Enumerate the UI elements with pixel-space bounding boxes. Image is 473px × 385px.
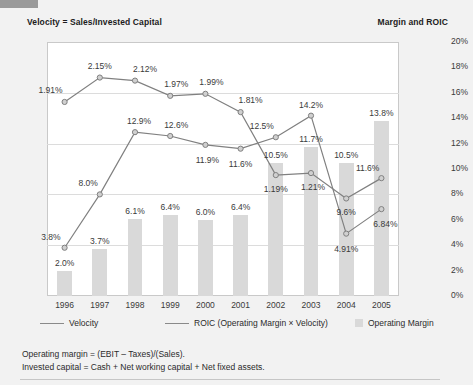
bar-value-label: 6.4% <box>231 202 250 212</box>
roic-marker <box>238 146 243 151</box>
bottom-divider <box>20 379 440 380</box>
velocity-value-label: 9.6% <box>337 207 356 217</box>
chart-legend: VelocityROIC (Operating Margin × Velocit… <box>40 318 440 332</box>
right-axis-title: Margin and ROIC <box>378 17 448 27</box>
bar-value-label: 13.8% <box>369 108 393 118</box>
right-axis-tick-label: 16% <box>451 87 473 97</box>
roic-value-label: 3.8% <box>41 232 60 242</box>
roic-marker <box>273 135 278 140</box>
roic-marker <box>97 192 102 197</box>
velocity-marker <box>97 75 102 80</box>
roic-marker <box>308 113 313 118</box>
x-axis-tick-label: 2003 <box>293 300 328 310</box>
bar-value-label: 6.0% <box>196 207 215 217</box>
velocity-marker <box>238 110 243 115</box>
roic-value-label: 11.6% <box>229 159 252 169</box>
right-axis-tick-label: 10% <box>451 163 473 173</box>
velocity-marker <box>344 196 349 201</box>
velocity-value-label: 1.91% <box>38 85 62 95</box>
velocity-marker <box>273 172 278 177</box>
roic-marker <box>203 142 208 147</box>
velocity-value-label: 1.81% <box>239 95 263 105</box>
chart-plot-area: 0.00.51.01.52.02.5 0%2%4%6%8%10%12%14%16… <box>47 42 399 296</box>
velocity-value-label: 1.99% <box>199 77 223 87</box>
legend-line-marker <box>40 323 64 324</box>
x-axis-tick-label: 2004 <box>329 300 364 310</box>
roic-value-label: 12.6% <box>164 120 188 130</box>
legend-item-operating: Operating Margin <box>355 318 434 328</box>
legend-item-velocity: Velocity <box>40 318 98 328</box>
bar-value-label: 6.1% <box>125 206 144 216</box>
x-axis-tick-label: 1997 <box>82 300 117 310</box>
velocity-marker <box>62 99 67 104</box>
roic-value-label: 12.9% <box>127 116 151 126</box>
right-axis-tick-label: 12% <box>451 138 473 148</box>
footnote-2: Invested capital = Cash + Net working ca… <box>22 361 265 374</box>
velocity-marker <box>132 78 137 83</box>
velocity-marker <box>203 91 208 96</box>
roic-marker <box>168 133 173 138</box>
chart-footnotes: Operating margin = (EBIT – Taxes)/(Sales… <box>22 348 265 374</box>
velocity-value-label: 1.19% <box>264 184 288 194</box>
right-axis-tick-label: 14% <box>451 112 473 122</box>
legend-label: ROIC (Operating Margin × Velocity) <box>194 318 328 328</box>
legend-swatch-marker <box>355 319 363 327</box>
x-axis-tick-label: 1998 <box>117 300 152 310</box>
roic-marker <box>62 245 67 250</box>
roic-line <box>65 116 382 248</box>
x-axis-tick-label: 2002 <box>258 300 293 310</box>
right-axis-tick-label: 0% <box>451 290 473 300</box>
legend-label: Velocity <box>69 318 98 328</box>
right-axis-tick-label: 6% <box>451 214 473 224</box>
bar-value-label: 2.0% <box>55 258 74 268</box>
velocity-marker <box>168 93 173 98</box>
footnote-1: Operating margin = (EBIT – Taxes)/(Sales… <box>22 348 265 361</box>
right-axis-tick-label: 4% <box>451 239 473 249</box>
velocity-value-label: 1.97% <box>164 79 188 89</box>
roic-value-label: 14.2% <box>299 100 323 110</box>
velocity-value-label: 2.15% <box>88 61 112 71</box>
bar-value-label: 11.7% <box>299 134 322 144</box>
legend-line-marker <box>165 323 189 324</box>
bar-value-label: 6.4% <box>161 202 180 212</box>
roic-marker <box>379 207 384 212</box>
roic-marker <box>132 130 137 135</box>
bar-value-label: 10.5% <box>264 150 288 160</box>
x-axis-tick-label: 1996 <box>47 300 82 310</box>
right-axis-tick-label: 8% <box>451 188 473 198</box>
roic-value-label: 4.91% <box>334 244 358 254</box>
x-axis-tick-label: 2001 <box>223 300 258 310</box>
velocity-value-label: 1.21% <box>301 182 325 192</box>
roic-value-label: 8.0% <box>78 178 97 188</box>
legend-label: Operating Margin <box>368 318 434 328</box>
bar-value-label: 10.5% <box>334 150 358 160</box>
legend-item-roic: ROIC (Operating Margin × Velocity) <box>165 318 328 328</box>
x-axis-tick-label: 1999 <box>153 300 188 310</box>
velocity-line <box>65 78 382 199</box>
roic-marker <box>344 231 349 236</box>
x-axis-tick-label: 2005 <box>364 300 399 310</box>
roic-value-label: 11.9% <box>196 155 219 165</box>
velocity-value-label: 2.12% <box>133 64 157 74</box>
right-axis-tick-label: 18% <box>451 61 473 71</box>
roic-value-label: 12.5% <box>250 121 274 131</box>
bar-value-label: 3.7% <box>90 236 109 246</box>
x-axis-tick-label: 2000 <box>188 300 223 310</box>
velocity-value-label: 11.6% <box>356 163 379 173</box>
left-axis-title: Velocity = Sales/Invested Capital <box>27 17 162 27</box>
velocity-marker <box>379 176 384 181</box>
right-axis-tick-label: 2% <box>451 265 473 275</box>
velocity-marker <box>308 170 313 175</box>
window-tab-marker <box>0 0 38 8</box>
right-axis-tick-label: 20% <box>451 36 473 46</box>
roic-value-label: 6.84% <box>373 219 397 229</box>
